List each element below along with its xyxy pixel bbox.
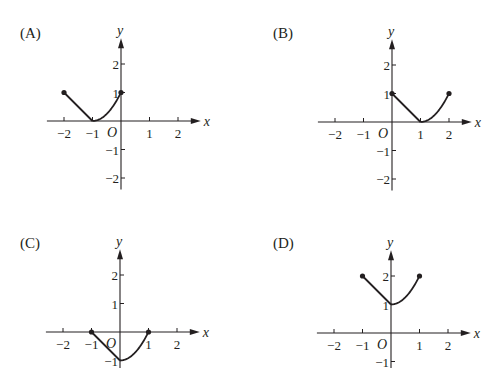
parabola-curve bbox=[421, 94, 450, 123]
x-tick-label: 2 bbox=[175, 126, 182, 141]
endpoint-dot bbox=[118, 90, 123, 95]
x-tick-label: −2 bbox=[327, 338, 341, 353]
y-tick-label: 1 bbox=[112, 297, 119, 312]
x-tick-label: 2 bbox=[445, 338, 452, 353]
y-tick-label: −1 bbox=[105, 143, 119, 158]
y-axis-label: y bbox=[385, 235, 394, 250]
x-axis-arrow-icon bbox=[462, 119, 472, 125]
graph-panel-d: (D)x−2−112y21−1O bbox=[273, 235, 481, 368]
y-axis-arrow-icon bbox=[389, 39, 395, 49]
graph-panel-a: (A)x−2−112y21−1−2O bbox=[20, 23, 211, 189]
graph-panel-c: (C)x−2−112y21−1O bbox=[20, 234, 210, 368]
x-tick-label: 1 bbox=[146, 126, 153, 141]
endpoint-dot bbox=[360, 273, 365, 278]
origin-label: O bbox=[378, 126, 388, 141]
x-axis-label: x bbox=[203, 114, 211, 129]
y-tick-label: 2 bbox=[112, 268, 119, 283]
x-tick-label: 2 bbox=[174, 337, 181, 352]
panel-label: (D) bbox=[273, 235, 294, 252]
y-tick-label: 2 bbox=[383, 269, 390, 284]
y-axis-label: y bbox=[115, 23, 124, 38]
x-axis: x−2−112 bbox=[317, 326, 481, 353]
x-axis-arrow-icon bbox=[461, 330, 471, 336]
x-axis-arrow-icon bbox=[191, 118, 201, 124]
y-axis: y21−1−2 bbox=[376, 24, 396, 190]
panel-label: (C) bbox=[20, 235, 40, 252]
y-axis-arrow-icon bbox=[117, 249, 123, 259]
y-axis-arrow-icon bbox=[118, 38, 124, 48]
x-tick-label: −1 bbox=[357, 127, 371, 142]
endpoint-dot bbox=[146, 329, 151, 334]
y-axis-label: y bbox=[114, 234, 123, 249]
y-tick-label: −1 bbox=[375, 355, 389, 368]
x-tick-label: −1 bbox=[86, 126, 100, 141]
x-axis: x−2−112 bbox=[46, 325, 210, 352]
x-axis-label: x bbox=[474, 115, 482, 130]
graphs-canvas: (A)x−2−112y21−1−2O(B)x−2−112y21−1−2O(C)x… bbox=[0, 0, 495, 368]
endpoint-dot bbox=[89, 329, 94, 334]
endpoint-dot bbox=[61, 90, 66, 95]
x-tick-label: −2 bbox=[56, 337, 70, 352]
y-tick-label: −2 bbox=[376, 172, 390, 187]
x-tick-label: −2 bbox=[57, 126, 71, 141]
parabola-curve bbox=[120, 332, 149, 361]
x-tick-label: −1 bbox=[356, 338, 370, 353]
line-segment bbox=[64, 93, 93, 122]
y-tick-label: 2 bbox=[384, 58, 391, 73]
panel-label: (A) bbox=[20, 25, 41, 42]
x-axis-arrow-icon bbox=[190, 329, 200, 335]
y-axis: y21−1−2 bbox=[105, 23, 125, 189]
graph-panel-b: (B)x−2−112y21−1−2O bbox=[273, 24, 482, 190]
y-tick-label: −1 bbox=[376, 144, 390, 159]
y-tick-label: 1 bbox=[384, 87, 391, 102]
endpoint-dot bbox=[389, 91, 394, 96]
x-axis: x−2−112 bbox=[47, 114, 211, 141]
x-axis-label: x bbox=[473, 326, 481, 341]
x-tick-label: 1 bbox=[417, 127, 424, 142]
y-axis-label: y bbox=[386, 24, 395, 39]
line-segment bbox=[392, 94, 421, 123]
origin-label: O bbox=[377, 337, 387, 352]
endpoint-dot bbox=[417, 273, 422, 278]
panel-label: (B) bbox=[273, 25, 293, 42]
x-axis: x−2−112 bbox=[318, 115, 482, 142]
x-tick-label: −2 bbox=[328, 127, 342, 142]
endpoint-dot bbox=[446, 91, 451, 96]
x-axis-label: x bbox=[202, 325, 210, 340]
x-tick-label: 2 bbox=[446, 127, 453, 142]
x-tick-label: 1 bbox=[416, 338, 423, 353]
y-axis-arrow-icon bbox=[388, 250, 394, 260]
x-tick-label: −1 bbox=[85, 337, 99, 352]
y-tick-label: −2 bbox=[105, 171, 119, 186]
x-tick-label: 1 bbox=[145, 337, 152, 352]
parabola-curve bbox=[391, 276, 420, 305]
origin-label: O bbox=[107, 125, 117, 140]
y-tick-label: 2 bbox=[113, 57, 120, 72]
